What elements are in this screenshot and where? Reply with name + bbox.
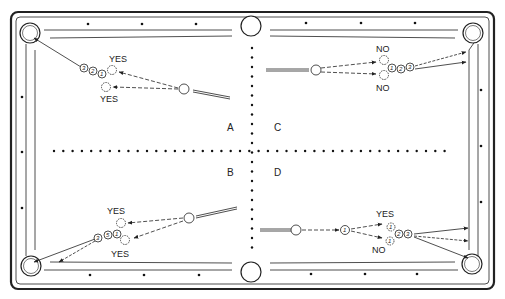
label-c-top: NO [376, 44, 390, 54]
ball-a-1: 1 [100, 71, 103, 77]
quadrant-label-b: B [227, 167, 234, 178]
label-b-bottom: YES [111, 249, 129, 259]
ball-b-1: 1 [115, 231, 118, 237]
label-d-top: YES [376, 209, 394, 219]
ball-c-1: 1 [390, 65, 393, 71]
pockets [20, 16, 483, 282]
ball-d-first: 1 [343, 227, 346, 233]
ball-a-2: 2 [90, 68, 95, 74]
shot-a [34, 38, 230, 99]
pool-table-diagram: A B C D 3 2 1 YES YES 1 2 3 NO NO [0, 0, 505, 299]
ball-d-ghost-bottom: 1 [388, 238, 391, 244]
label-b-top: YES [107, 206, 125, 216]
pocket-top-side [241, 16, 261, 36]
pocket-bottom-side [241, 262, 261, 282]
label-c-bottom: NO [376, 83, 390, 93]
pocket-top-right [463, 23, 483, 43]
label-a-bottom: YES [100, 94, 118, 104]
pocket-bottom-left [21, 256, 41, 276]
ball-c-2: 2 [398, 66, 403, 72]
quadrant-label-a: A [227, 122, 234, 133]
label-a-top: YES [109, 54, 127, 64]
label-d-bottom: NO [372, 245, 386, 255]
ball-d-2: 2 [396, 231, 401, 237]
ball-d-ghost-top: 1 [389, 224, 392, 230]
shot-c [266, 52, 466, 80]
shot-b [34, 207, 237, 262]
quadrant-label-c: C [274, 122, 281, 133]
shot-d [260, 223, 468, 258]
quadrant-label-d: D [274, 167, 281, 178]
